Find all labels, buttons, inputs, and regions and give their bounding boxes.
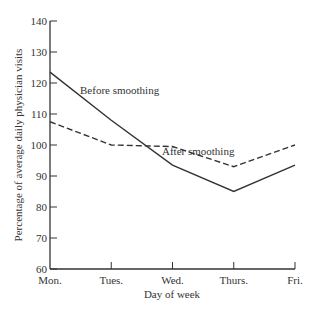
- y-tick-label: 130: [31, 46, 48, 58]
- y-tick-label: 140: [31, 15, 48, 27]
- x-tick-label: Mon.: [38, 274, 62, 286]
- y-tick-label: 110: [31, 108, 48, 120]
- before-smoothing-label: Before smoothing: [80, 84, 160, 96]
- x-tick-label: Fri.: [287, 274, 303, 286]
- x-tick-label: Wed.: [161, 274, 184, 286]
- y-tick-label: 70: [36, 232, 48, 244]
- after-smoothing-label: After smoothing: [162, 145, 235, 157]
- y-tick-label: 120: [31, 77, 48, 89]
- x-tick-label: Thurs.: [220, 274, 249, 286]
- x-tick-label: Tues.: [99, 274, 123, 286]
- y-axis: 60708090100110120130140: [31, 15, 58, 275]
- y-tick-label: 90: [36, 170, 48, 182]
- line-chart: 60708090100110120130140 Mon.Tues.Wed.Thu…: [0, 0, 316, 314]
- y-tick-label: 100: [31, 139, 48, 151]
- y-tick-label: 80: [36, 201, 48, 213]
- y-axis-label: Percentage of average daily physician vi…: [12, 49, 24, 242]
- x-axis: Mon.Tues.Wed.Thurs.Fri.: [38, 262, 303, 286]
- x-axis-label: Day of week: [144, 288, 201, 300]
